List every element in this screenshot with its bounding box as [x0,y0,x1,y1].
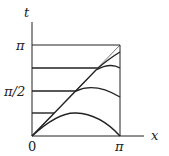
diagram-canvas: t x 0 π π π/2 [0,0,169,156]
curve-t-0 [32,113,120,136]
curve-t-pi2 [32,88,120,97]
x-tick-pi-label: π [114,139,124,154]
x-axis-label: x [151,128,159,143]
t-axis-label: t [24,5,30,20]
t-tick-pi2-label: π/2 [3,84,25,99]
origin-label: 0 [28,139,36,154]
t-tick-pi-label: π [15,38,25,53]
